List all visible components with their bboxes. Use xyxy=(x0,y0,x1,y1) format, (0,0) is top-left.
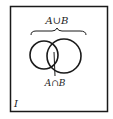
universal-set-label: I xyxy=(13,98,19,109)
union-brace xyxy=(31,28,86,35)
intersection-label: A∩B xyxy=(44,78,66,88)
intersection-pointer xyxy=(54,52,55,76)
set-b-circle xyxy=(47,39,81,73)
union-label: A∪B xyxy=(45,15,69,26)
venn-diagram: A∪B A∩B I xyxy=(0,0,113,119)
